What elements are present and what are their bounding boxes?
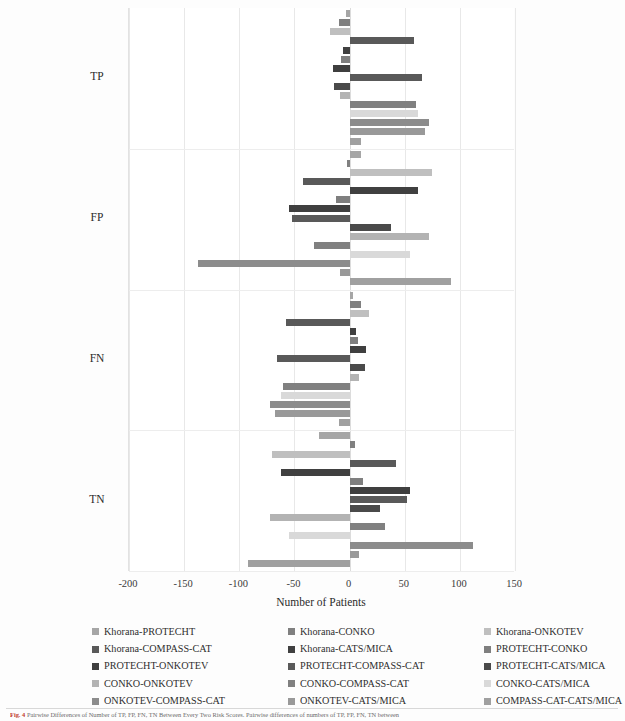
chart-bar (350, 505, 381, 512)
legend-item[interactable]: Khorana-COMPASS-CAT (92, 644, 288, 654)
chart-bar (339, 419, 350, 426)
legend-swatch-icon (484, 680, 491, 687)
chart-bar (198, 260, 349, 267)
chart-bar (248, 560, 349, 567)
chart-bar (283, 383, 349, 390)
y-axis-group-label: TN (74, 493, 120, 505)
chart-bar (350, 542, 474, 549)
chart-bar (343, 47, 350, 54)
chart-bar (350, 441, 356, 448)
legend-swatch-icon (288, 628, 295, 635)
legend-item[interactable]: ONKOTEV-CATS/MICA (288, 696, 484, 706)
legend-item[interactable]: PROTECHT-COMPASS-CAT (288, 661, 484, 671)
legend-swatch-icon (92, 698, 99, 705)
caption-label: Fig. 4 (10, 711, 25, 718)
chart-bar (350, 101, 416, 108)
legend-swatch-icon (288, 680, 295, 687)
x-gridline (515, 8, 516, 571)
chart-bar (340, 92, 350, 99)
chart-bar (350, 278, 451, 285)
chart-bar (350, 337, 359, 344)
y-axis-group-label: FP (74, 211, 120, 223)
legend-item[interactable]: Khorana-PROTECHT (92, 627, 288, 637)
chart-bar (350, 224, 392, 231)
x-tick-label: -50 (263, 578, 323, 589)
chart-bar (341, 56, 350, 63)
chart-bar (350, 292, 353, 299)
chart-bar (303, 178, 349, 185)
legend-item-label: PROTECHT-COMPASS-CAT (300, 661, 424, 671)
legend-item-label: CONKO-ONKOTEV (104, 679, 193, 689)
chart-bar (281, 469, 349, 476)
legend-item[interactable]: Khorana-CATS/MICA (288, 644, 484, 654)
chart-bar (350, 478, 363, 485)
chart-bar (333, 65, 350, 72)
legend-item[interactable]: Khorana-CONKO (288, 627, 484, 637)
chart-bar (350, 233, 429, 240)
y-gridline (129, 430, 514, 431)
legend-item-label: Khorana-PROTECHT (104, 627, 195, 637)
chart-bar (350, 37, 414, 44)
figure-panel: -200-150-100-50050100150TPFPFNTN Number … (0, 0, 625, 721)
x-tick-label: 0 (319, 578, 379, 589)
legend-swatch-icon (92, 628, 99, 635)
legend-item[interactable]: CONKO-CATS/MICA (484, 679, 625, 689)
legend-item-label: Khorana-COMPASS-CAT (104, 644, 212, 654)
chart-bar (334, 83, 349, 90)
chart-bar (270, 514, 349, 521)
x-tick-label: 100 (429, 578, 489, 589)
chart-bar (350, 364, 365, 371)
chart-bar (350, 187, 418, 194)
chart-legend: Khorana-PROTECHTKhorana-CONKOKhorana-ONK… (92, 623, 612, 710)
x-axis-title: Number of Patients (128, 596, 514, 608)
chart-bar (346, 10, 349, 17)
legend-swatch-icon (484, 646, 491, 653)
x-tick-label: 50 (374, 578, 434, 589)
legend-item-label: COMPASS-CAT-CATS/MICA (496, 696, 622, 706)
chart-bar (347, 160, 349, 167)
legend-item-label: PROTECHT-ONKOTEV (104, 661, 208, 671)
legend-item[interactable]: CONKO-COMPASS-CAT (288, 679, 484, 689)
legend-item-label: Khorana-CATS/MICA (300, 644, 393, 654)
legend-item-label: CONKO-CATS/MICA (496, 679, 590, 689)
chart-bar (272, 451, 349, 458)
chart-bar (289, 205, 350, 212)
chart-bar (319, 432, 350, 439)
chart-plot-area (128, 8, 514, 571)
legend-swatch-icon (92, 680, 99, 687)
chart-bar (350, 110, 418, 117)
chart-bar (340, 269, 350, 276)
chart-bar (350, 251, 411, 258)
chart-bar (350, 138, 361, 145)
y-gridline (129, 290, 514, 291)
chart-bar (281, 392, 349, 399)
legend-item[interactable]: COMPASS-CAT-CATS/MICA (484, 696, 625, 706)
legend-item[interactable]: Khorana-ONKOTEV (484, 627, 625, 637)
caption-divider (6, 708, 618, 709)
chart-bar (350, 496, 407, 503)
legend-item-label: ONKOTEV-COMPASS-CAT (104, 696, 225, 706)
caption-text: Pairwise Differences of Number of TP, FP… (27, 711, 399, 718)
legend-item[interactable]: PROTECHT-CONKO (484, 644, 625, 654)
chart-bar (314, 242, 349, 249)
chart-bar (330, 28, 350, 35)
chart-bar (350, 487, 411, 494)
legend-item[interactable]: CONKO-ONKOTEV (92, 679, 288, 689)
chart-bar (289, 532, 350, 539)
legend-swatch-icon (484, 628, 491, 635)
y-axis-group-label: TP (74, 70, 120, 82)
chart-bar (339, 19, 350, 26)
legend-item[interactable]: ONKOTEV-COMPASS-CAT (92, 696, 288, 706)
chart-bar (350, 523, 385, 530)
y-gridline (129, 571, 514, 572)
legend-swatch-icon (92, 663, 99, 670)
legend-swatch-icon (484, 663, 491, 670)
legend-swatch-icon (288, 663, 295, 670)
chart-bar (350, 551, 360, 558)
chart-bar (350, 460, 396, 467)
legend-item[interactable]: PROTECHT-CATS/MICA (484, 661, 625, 671)
legend-item[interactable]: PROTECHT-ONKOTEV (92, 661, 288, 671)
chart-bar (350, 151, 361, 158)
legend-item-label: Khorana-CONKO (300, 627, 375, 637)
legend-item-label: PROTECHT-CATS/MICA (496, 661, 605, 671)
